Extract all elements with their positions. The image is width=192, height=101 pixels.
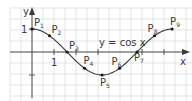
point-label-p4: P4 (84, 55, 94, 67)
point-label-p8: P8 (148, 23, 158, 35)
point-label-p3: P3 (69, 40, 79, 52)
point-label-p5: P5 (100, 77, 110, 89)
x-tick-label-1: 1 (51, 57, 57, 68)
function-label: y = cos x (99, 37, 146, 48)
x-axis-label: x (180, 56, 186, 67)
curve-points: P1P2P3P4P5P6P7P8P9 (30, 16, 180, 89)
point-label-p7: P7 (134, 52, 144, 64)
y-tick-label-1: 1 (21, 24, 27, 35)
point-p9 (171, 27, 174, 30)
y-axis-label: y (23, 6, 29, 17)
point-label-p2: P2 (52, 24, 62, 36)
point-p4 (83, 67, 86, 70)
point-label-p9: P9 (170, 16, 180, 28)
cosine-graph: P1P2P3P4P5P6P7P8P9 y x 1 1 y = cos x (0, 0, 192, 101)
